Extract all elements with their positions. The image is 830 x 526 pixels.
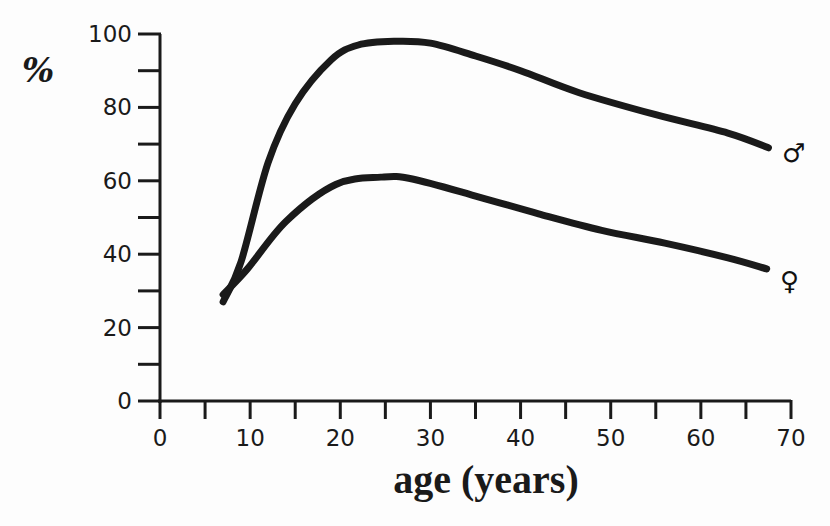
x-tick-label: 20 xyxy=(326,425,355,451)
y-tick-label: 40 xyxy=(103,241,132,267)
y-tick-label: 0 xyxy=(117,388,132,414)
x-axis-ticks: 010203040506070 xyxy=(153,401,806,451)
axes xyxy=(138,34,791,419)
x-tick-label: 50 xyxy=(596,425,625,451)
line-chart: 010203040506070 020406080100 % age (year… xyxy=(0,0,830,526)
y-axis-label: % xyxy=(22,50,54,90)
y-tick-label: 80 xyxy=(103,94,132,120)
x-tick-label: 60 xyxy=(686,425,715,451)
series-lines xyxy=(223,41,768,302)
y-tick-label: 20 xyxy=(103,315,132,341)
y-axis-ticks: 020406080100 xyxy=(88,21,160,414)
x-axis-label: age (years) xyxy=(393,457,578,502)
x-tick-label: 70 xyxy=(776,425,805,451)
female-symbol-icon: ♀ xyxy=(780,266,799,296)
y-tick-label: 60 xyxy=(103,168,132,194)
x-tick-label: 0 xyxy=(153,425,168,451)
male-curve xyxy=(223,41,768,302)
y-tick-label: 100 xyxy=(88,21,132,47)
male-symbol-icon: ♂ xyxy=(782,138,805,168)
female-curve xyxy=(223,176,767,294)
x-tick-label: 40 xyxy=(506,425,535,451)
x-tick-label: 30 xyxy=(416,425,445,451)
x-tick-label: 10 xyxy=(236,425,265,451)
